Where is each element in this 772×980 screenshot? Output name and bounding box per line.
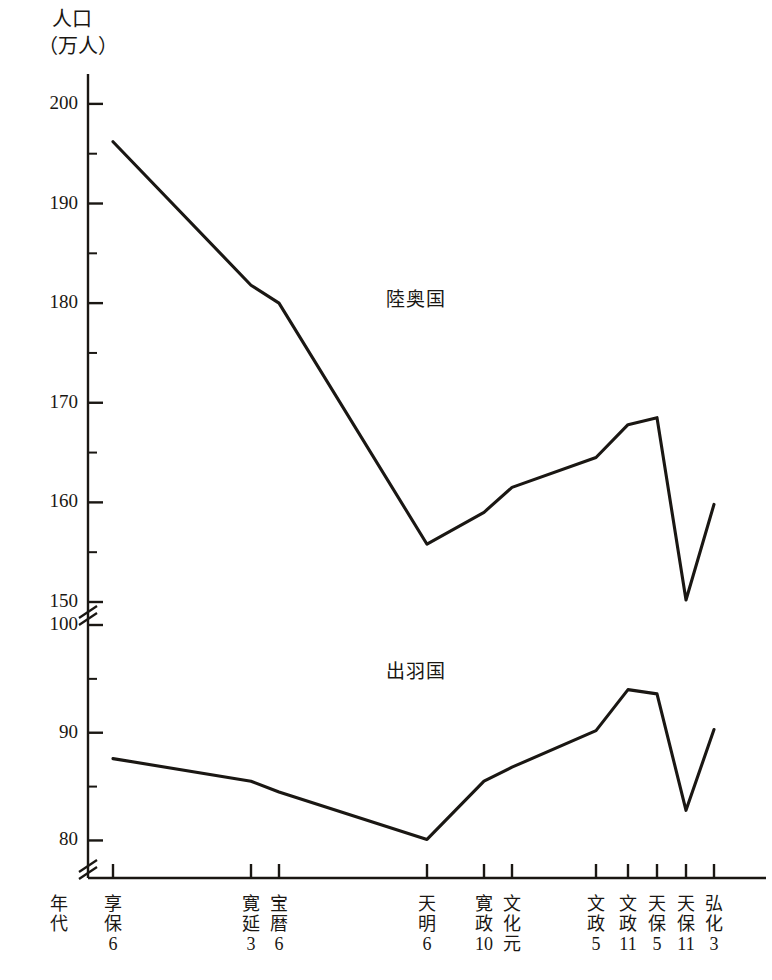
y-axis-tick-label: 100 [30,614,78,633]
x-label-year: 6 [410,934,444,955]
x-axis-tick-label: 文化元 [495,894,529,955]
data-series-line-mutsu [113,142,714,600]
x-label-era-char1: 文 [495,894,529,914]
x-axis-tick-label: 享保6 [96,894,130,955]
y-axis-tick-label: 190 [30,193,78,212]
axis-lines [88,74,766,878]
y-axis-tick-label: 90 [30,722,78,741]
x-label-era-char2: 保 [96,914,130,934]
x-label-era-char1: 宝 [262,894,296,914]
x-label-year: 3 [697,934,731,955]
x-label-year: 6 [262,934,296,955]
x-label-era-char2: 暦 [262,914,296,934]
population-line-chart: 人口 （万人） 陸奥国 出羽国 年 代 15016017018019020080… [0,0,772,980]
x-axis-caption: 年 代 [42,894,76,934]
x-label-year: 5 [579,934,613,955]
x-label-era-char2: 化 [495,914,529,934]
x-axis-caption-line2: 代 [42,914,76,934]
y-axis-tick-label: 160 [30,491,78,510]
x-label-era-char1: 弘 [697,894,731,914]
x-label-year: 元 [495,934,529,955]
x-label-era-char1: 享 [96,894,130,914]
x-axis-tick-label: 宝暦6 [262,894,296,955]
series-label-dewa: 出羽国 [386,662,446,681]
x-axis-tick-label: 天明6 [410,894,444,955]
y-axis-tick-label: 150 [30,591,78,610]
x-axis-tick-label: 文政5 [579,894,613,955]
x-label-era-char2: 明 [410,914,444,934]
x-label-year: 6 [96,934,130,955]
x-axis-tick-label: 弘化3 [697,894,731,955]
x-label-era-char1: 文 [579,894,613,914]
x-label-era-char2: 政 [579,914,613,934]
x-axis-caption-line1: 年 [42,894,76,914]
x-label-era-char2: 化 [697,914,731,934]
y-axis-tick-label: 80 [30,829,78,848]
data-series-line-dewa [113,690,714,840]
plot-surface [0,0,772,980]
y-axis-tick-label: 200 [30,93,78,112]
y-axis-tick-label: 180 [30,292,78,311]
series-label-mutsu: 陸奥国 [386,290,446,309]
x-label-era-char1: 天 [410,894,444,914]
y-axis-tick-label: 170 [30,392,78,411]
